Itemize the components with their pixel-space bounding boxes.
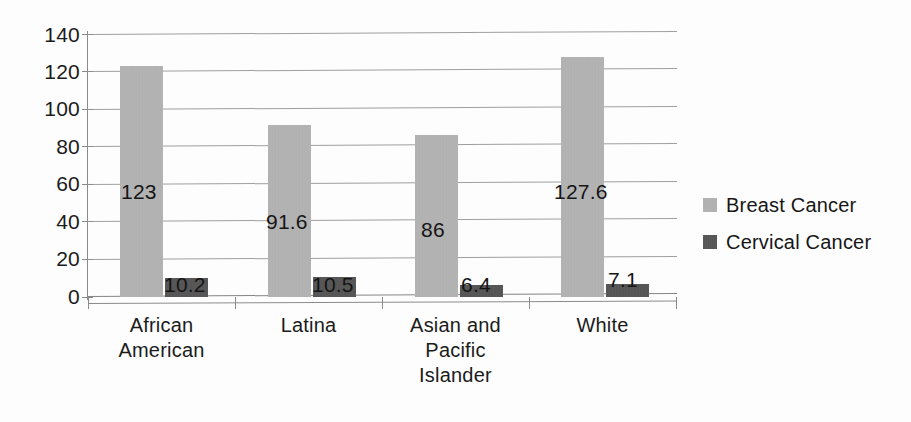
legend-label-cervical-cancer: Cervical Cancer: [726, 232, 871, 252]
y-tick-label-60: 60: [10, 173, 80, 194]
bar-chart: 140 120 100 80 60 40 20 0: [0, 0, 911, 422]
category-label-line: American: [88, 338, 235, 363]
category-label-asian-pacific-islander: Asian and Pacific Islander: [382, 313, 529, 388]
x-axis-separator-1: [235, 297, 236, 309]
data-label-breast-white: 127.6: [554, 181, 608, 202]
data-label-breast-asian-pacific-islander: 86: [421, 219, 445, 240]
x-axis-separator-2: [382, 297, 383, 309]
data-label-breast-african-american: 123: [121, 181, 157, 202]
category-label-african-american: African American: [88, 313, 235, 363]
x-axis-separator-3: [529, 297, 530, 309]
data-label-cervical-latina: 10.5: [312, 274, 354, 295]
x-axis-separator-4: [676, 297, 677, 309]
y-tick-label-140: 140: [10, 24, 80, 45]
data-label-cervical-african-american: 10.2: [164, 274, 206, 295]
category-label-line: African: [88, 313, 235, 338]
category-label-line: Pacific: [382, 338, 529, 363]
y-tick-label-20: 20: [10, 248, 80, 269]
legend-item-cervical-cancer[interactable]: Cervical Cancer: [703, 223, 908, 260]
category-label-white: White: [529, 313, 676, 338]
gridline-140: [88, 31, 677, 35]
y-tick-label-120: 120: [10, 61, 80, 82]
legend: Breast Cancer Cervical Cancer: [703, 186, 908, 260]
category-label-line: Latina: [235, 313, 382, 338]
x-axis-separator-0: [88, 297, 89, 309]
y-tick-label-0: 0: [10, 286, 80, 307]
legend-label-breast-cancer: Breast Cancer: [726, 195, 856, 215]
category-label-latina: Latina: [235, 313, 382, 338]
y-tick-label-80: 80: [10, 136, 80, 157]
y-tick-label-40: 40: [10, 211, 80, 232]
category-label-line: Islander: [382, 363, 529, 388]
data-label-breast-latina: 91.6: [266, 211, 308, 232]
plot-area: 123 10.2 91.6 10.5 86 6.4 127.6 7.1: [88, 34, 677, 297]
bar-breast-white[interactable]: [561, 57, 604, 297]
legend-swatch-breast-icon: [703, 198, 717, 212]
y-axis-labels: 140 120 100 80 60 40 20 0: [8, 0, 80, 422]
data-label-cervical-asian-pacific-islander: 6.4: [461, 274, 491, 295]
category-label-line: White: [529, 313, 676, 338]
category-label-line: Asian and: [382, 313, 529, 338]
data-label-cervical-white: 7.1: [608, 269, 638, 290]
bar-breast-asian-pacific-islander[interactable]: [415, 135, 458, 297]
y-tick-label-100: 100: [10, 98, 80, 119]
legend-item-breast-cancer[interactable]: Breast Cancer: [703, 186, 908, 223]
legend-swatch-cervical-icon: [703, 235, 717, 249]
